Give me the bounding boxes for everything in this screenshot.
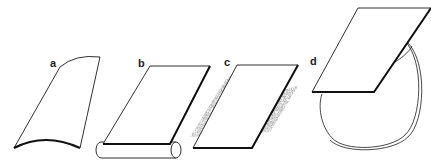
diagram-canvas: a b c d bbox=[0, 0, 431, 163]
curved-sheet-left-edge bbox=[14, 67, 60, 148]
curved-sheet-bottom-edge bbox=[14, 140, 80, 148]
panel-b-label: b bbox=[138, 57, 145, 69]
panel-c-label: c bbox=[224, 56, 230, 68]
panel-a: a bbox=[14, 56, 100, 148]
panel-a-label: a bbox=[50, 57, 57, 69]
curved-sheet-top-edge bbox=[60, 56, 100, 67]
panel-d-label: d bbox=[310, 55, 317, 67]
panel-d: d bbox=[310, 8, 431, 150]
curved-sheet-right-edge bbox=[80, 57, 100, 148]
panel-b: b bbox=[96, 57, 210, 158]
